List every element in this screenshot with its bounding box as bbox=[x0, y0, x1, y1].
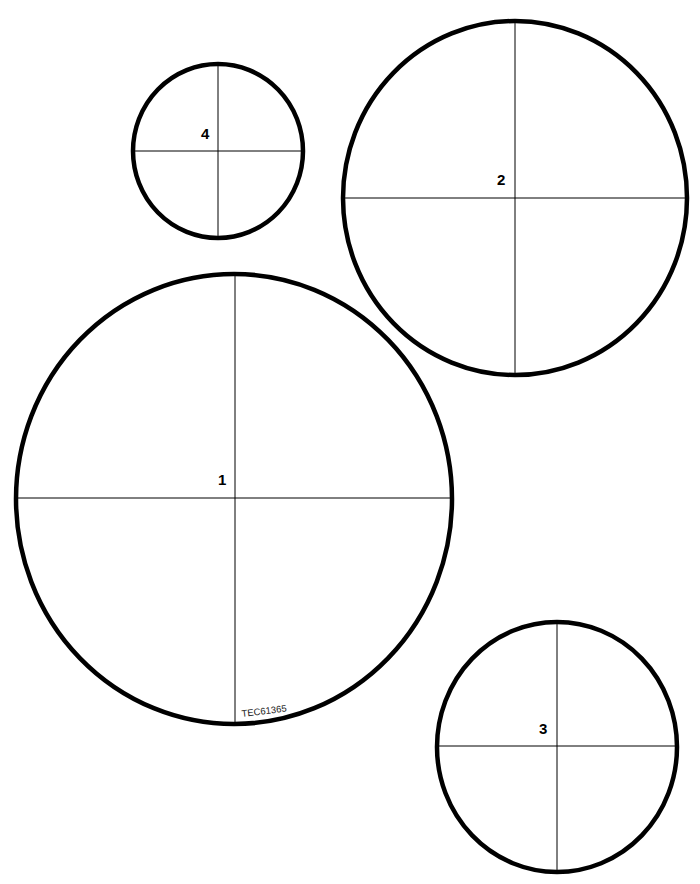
circle-1-label: 1 bbox=[218, 471, 226, 488]
circle-3: 3 bbox=[437, 622, 677, 872]
circle-diagram: 1 TEC61365 2 3 4 bbox=[0, 0, 700, 884]
circle-3-label: 3 bbox=[539, 720, 547, 737]
circle-4-label: 4 bbox=[201, 125, 210, 142]
circle-2: 2 bbox=[343, 21, 687, 375]
circle-2-label: 2 bbox=[497, 171, 505, 188]
circle-1-outline bbox=[16, 274, 452, 724]
circle-4: 4 bbox=[133, 64, 303, 238]
circle-1: 1 TEC61365 bbox=[16, 274, 452, 724]
reference-code: TEC61365 bbox=[241, 703, 287, 719]
